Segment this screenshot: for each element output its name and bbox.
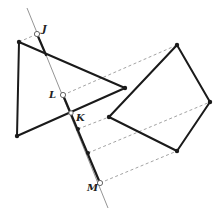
label-L: L xyxy=(48,89,56,100)
quad-vertex-left xyxy=(107,115,111,119)
projection-diagram: J L K M xyxy=(0,0,222,215)
projection-point-quad-right xyxy=(86,151,90,155)
projection-ray-quad-top xyxy=(63,45,177,95)
point-J xyxy=(34,31,39,36)
label-M: M xyxy=(86,182,99,193)
point-M xyxy=(97,180,102,185)
projection-point-quad-left xyxy=(76,127,80,131)
triangle-vertex-top xyxy=(17,40,21,44)
triangle-vertex-bottom xyxy=(15,134,19,138)
quadrilateral xyxy=(109,45,210,151)
triangle xyxy=(17,42,125,136)
point-K xyxy=(69,111,73,115)
projection-ray-quad-bottom xyxy=(100,151,177,183)
quad-vertex-right xyxy=(208,100,212,104)
point-L xyxy=(60,92,65,97)
label-J: J xyxy=(40,23,48,34)
quad-vertex-top xyxy=(175,43,179,47)
label-K: K xyxy=(75,112,86,123)
quad-vertex-bottom xyxy=(175,149,179,153)
triangle-vertex-right xyxy=(123,86,127,90)
